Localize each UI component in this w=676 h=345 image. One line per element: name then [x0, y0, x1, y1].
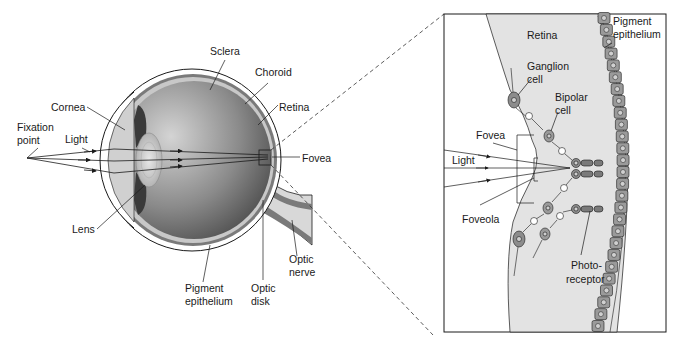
cell-nucleus — [617, 217, 622, 222]
cell-nucleus — [619, 122, 624, 127]
inset-label-pigment-epithelium-2: epithelium — [613, 28, 661, 40]
cell-nucleus — [615, 229, 620, 234]
cell-nucleus — [621, 158, 626, 163]
label-choroid: Choroid — [255, 66, 292, 78]
inset-label-ganglion-cell-1: Ganglion — [527, 60, 569, 72]
cell-nucleus — [604, 27, 609, 32]
inset-label-light: Light — [452, 154, 475, 166]
inset-label-photoreceptor-1: Photo- — [571, 259, 602, 271]
cell-nucleus — [601, 300, 606, 305]
cell-nucleus — [621, 170, 626, 175]
label-light: Light — [65, 133, 88, 145]
cell-nucleus — [607, 276, 612, 281]
label-sclera: Sclera — [210, 45, 240, 57]
label-fixation-point-1: Fixation — [17, 121, 54, 133]
inset-label-foveola: Foveola — [462, 213, 500, 225]
cell-nucleus — [620, 146, 625, 151]
label-optic-nerve-2: nerve — [289, 266, 315, 278]
cell-nucleus — [598, 312, 603, 317]
label-lens: Lens — [72, 223, 95, 235]
cell-nucleus — [609, 264, 614, 269]
cell-nucleus — [611, 63, 616, 68]
cell-nucleus — [613, 75, 618, 80]
label-retina: Retina — [279, 101, 310, 113]
cell-nucleus — [611, 252, 616, 257]
eye-diagram: Sclera Choroid Retina Cornea Fixation po… — [0, 0, 676, 345]
cell-nucleus — [620, 134, 625, 139]
label-pigment-epithelium-1: Pigment — [185, 282, 224, 294]
inset-label-bipolar-cell-2: cell — [555, 104, 571, 116]
cell-nucleus — [618, 110, 623, 115]
inset-label-pigment-epithelium-1: Pigment — [613, 15, 652, 27]
cell-nucleus — [616, 98, 621, 103]
label-cornea: Cornea — [51, 101, 86, 113]
cell-nucleus — [609, 51, 614, 56]
inset-label-fovea: Fovea — [476, 129, 505, 141]
cell-nucleus — [604, 288, 609, 293]
inset-label-ganglion-cell-2: cell — [527, 73, 543, 85]
label-fovea: Fovea — [302, 152, 331, 164]
label-optic-disk-1: Optic — [251, 282, 276, 294]
eyeball — [100, 69, 312, 251]
inset-label-photoreceptor-2: receptor — [566, 273, 605, 285]
cell-nucleus — [615, 87, 620, 92]
label-optic-nerve-1: Optic — [289, 253, 314, 265]
label-fixation-point-2: point — [17, 134, 40, 146]
inset-label-bipolar-cell-1: Bipolar — [555, 91, 588, 103]
cell-nucleus — [619, 193, 624, 198]
cell-nucleus — [602, 16, 607, 21]
cell-nucleus — [606, 39, 611, 44]
cell-nucleus — [618, 205, 623, 210]
cell-nucleus — [620, 181, 625, 186]
cell-nucleus — [596, 324, 601, 329]
cell-nucleus — [614, 241, 619, 246]
zoom-connector-lines — [271, 14, 444, 335]
label-pigment-epithelium-2: epithelium — [185, 295, 233, 307]
inset-label-retina: Retina — [527, 29, 558, 41]
label-optic-disk-2: disk — [251, 295, 270, 307]
